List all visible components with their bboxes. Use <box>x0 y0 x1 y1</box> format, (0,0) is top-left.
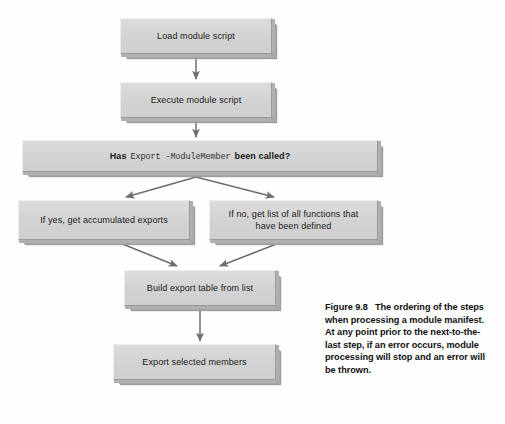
node-label: Execute module script <box>145 94 248 106</box>
node-label: Export selected members <box>136 356 252 368</box>
figure-number: Figure 9.8 <box>325 302 368 312</box>
node-label: If no, get list of all functions that ha… <box>223 208 365 232</box>
node-label: Build export table from list <box>141 282 259 294</box>
flowchart-diagram: Load module script Execute module script… <box>0 0 505 424</box>
node-export-selected-members[interactable]: Export selected members <box>113 344 276 380</box>
node-label: Load module script <box>151 30 241 42</box>
node-has-export-modulemember-been-called[interactable]: HasExport -ModuleMemberbeen called? <box>22 140 378 172</box>
figure-caption: Figure 9.8The ordering of the steps when… <box>325 301 495 377</box>
node-execute-module-script[interactable]: Execute module script <box>120 82 272 118</box>
node-label: HasExport -ModuleMemberbeen called? <box>104 150 297 163</box>
node-if-yes-get-accumulated-exports[interactable]: If yes, get accumulated exports <box>18 200 190 240</box>
decision-label-cmdlet: Export -ModuleMember <box>131 152 231 162</box>
edge-no-to-build <box>220 243 279 266</box>
edge-decision-to-no <box>196 177 274 197</box>
node-label: If yes, get accumulated exports <box>34 214 174 226</box>
decision-label-prefix: Has <box>110 151 127 161</box>
node-if-no-get-list-of-all-functions[interactable]: If no, get list of all functions that ha… <box>209 200 378 240</box>
edge-yes-to-build <box>120 243 177 266</box>
node-load-module-script[interactable]: Load module script <box>120 18 272 54</box>
decision-label-suffix: been called? <box>235 151 291 161</box>
edge-decision-to-yes <box>126 177 196 197</box>
node-build-export-table-from-list[interactable]: Build export table from list <box>124 270 276 306</box>
figure-caption-text: The ordering of the steps when processin… <box>325 302 485 375</box>
